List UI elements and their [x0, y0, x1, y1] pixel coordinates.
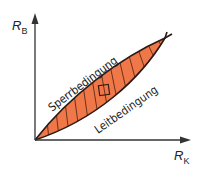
y-axis-arrowhead-icon [32, 13, 39, 24]
x-axis-label: RK [174, 148, 189, 166]
region-diagram: RB RK Sperrbedingung Leitbedingung [0, 0, 200, 171]
x-axis-arrowhead-icon [180, 137, 191, 144]
y-axis-label: RB [12, 18, 27, 36]
